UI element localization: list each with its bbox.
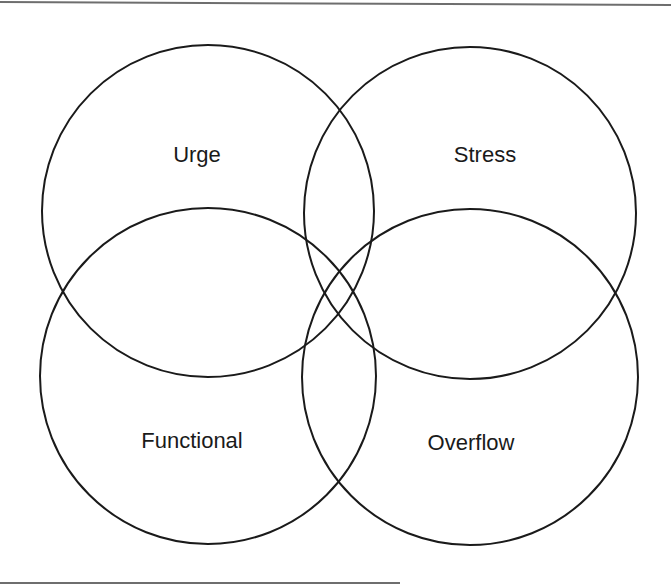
stress-circle xyxy=(304,47,636,379)
functional-label: Functional xyxy=(141,430,243,452)
overflow-circle xyxy=(302,209,638,545)
top-frame-line xyxy=(0,2,671,5)
urge-circle xyxy=(42,45,374,377)
stress-label: Stress xyxy=(454,144,516,166)
urge-label: Urge xyxy=(173,144,221,166)
venn-diagram: Urge Stress Functional Overflow xyxy=(0,0,671,585)
venn-svg xyxy=(0,0,671,585)
overflow-label: Overflow xyxy=(428,432,515,454)
